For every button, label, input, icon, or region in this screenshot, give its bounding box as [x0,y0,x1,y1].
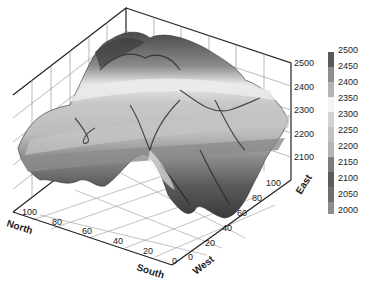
svg-text:0: 0 [172,256,177,266]
z-axis-ticks: 2500 2400 2300 2200 2100 [294,58,314,162]
cb-tick: 2350 [338,93,358,103]
colorbar [328,52,334,214]
svg-text:2300: 2300 [294,105,314,115]
north-label: North [5,217,34,236]
svg-text:0: 0 [188,252,193,262]
svg-text:2100: 2100 [294,152,314,162]
svg-text:2500: 2500 [294,58,314,68]
svg-text:60: 60 [82,226,92,236]
svg-text:40: 40 [113,236,123,246]
west-label: West [190,253,216,277]
surface-plot: 2500 2400 2300 2200 2100 100 80 60 40 20… [0,0,369,281]
svg-text:40: 40 [222,223,232,233]
cb-tick: 2150 [338,157,358,167]
svg-text:2400: 2400 [294,82,314,92]
cb-tick: 2200 [338,141,358,151]
cb-tick: 2400 [338,77,358,87]
svg-text:60: 60 [237,208,247,218]
cb-tick: 2050 [338,189,358,199]
cb-tick: 2450 [338,61,358,71]
cb-tick: 2100 [338,173,358,183]
cb-tick: 2250 [338,125,358,135]
cb-tick: 2500 [338,45,358,55]
cb-tick: 2300 [338,109,358,119]
svg-text:2200: 2200 [294,129,314,139]
svg-text:20: 20 [143,246,153,256]
svg-text:100: 100 [22,207,37,217]
cb-tick: 2000 [338,205,358,215]
south-label: South [135,261,165,280]
svg-text:20: 20 [205,238,215,248]
svg-text:80: 80 [52,217,62,227]
svg-text:100: 100 [266,178,281,188]
svg-text:80: 80 [252,193,262,203]
east-label: East [293,172,314,196]
